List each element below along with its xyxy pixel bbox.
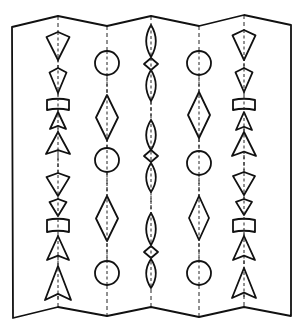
folded-paper-figure bbox=[0, 0, 300, 325]
lens-cutout bbox=[146, 163, 156, 192]
diamond-cutout bbox=[188, 92, 210, 138]
kite-cutout bbox=[233, 30, 256, 60]
column-2 bbox=[95, 51, 119, 285]
cutout-shapes bbox=[45, 25, 256, 300]
column-1 bbox=[45, 32, 71, 300]
column-3 bbox=[144, 25, 158, 288]
folded-paper-drawing bbox=[0, 0, 300, 325]
lens-cutout bbox=[146, 25, 156, 57]
column-5 bbox=[232, 30, 256, 298]
kite-cutout bbox=[50, 199, 67, 216]
column-4 bbox=[187, 51, 211, 285]
